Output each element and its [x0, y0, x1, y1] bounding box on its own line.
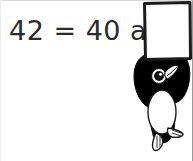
penguin-eye-pupil [154, 71, 164, 81]
penguin-belly [148, 90, 176, 134]
penguin-eye-highlight [159, 73, 162, 76]
blank-sign [145, 3, 191, 60]
worksheet-problem-card: 42 = 40 and [0, 0, 193, 161]
penguin-holding-blank-sign-illustration [129, 0, 193, 161]
blank-sign-panel [145, 3, 191, 60]
